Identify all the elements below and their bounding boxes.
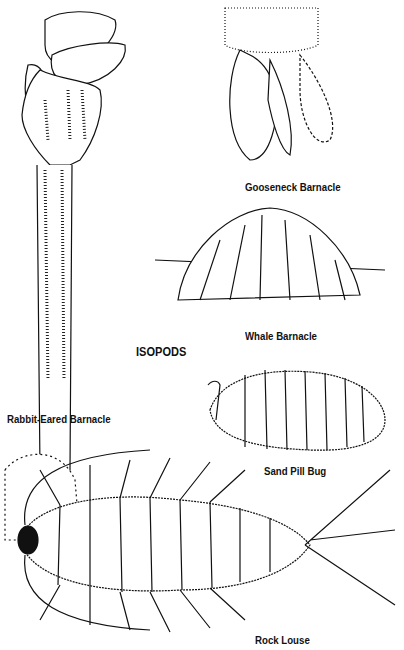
- gooseneck-barnacle-drawing: [225, 8, 333, 160]
- illustration-plate: [0, 0, 404, 650]
- sand-pill-bug-drawing: [208, 370, 385, 450]
- whale-barnacle-drawing: [155, 208, 385, 300]
- gooseneck-barnacle-label: Gooseneck Barnacle: [245, 181, 341, 193]
- section-heading-isopods: ISOPODS: [136, 345, 186, 359]
- rock-louse-label: Rock Louse: [255, 634, 310, 646]
- whale-barnacle-label: Whale Barnacle: [245, 330, 317, 342]
- rabbit-eared-barnacle-drawing: [5, 12, 125, 540]
- sand-pill-bug-label: Sand Pill Bug: [264, 465, 326, 477]
- rabbit-eared-barnacle-label: Rabbit-Eared Barnacle: [7, 413, 111, 425]
- rock-louse-drawing: [18, 450, 395, 632]
